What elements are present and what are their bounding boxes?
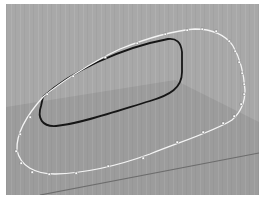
control-point[interactable] — [243, 93, 246, 96]
control-point[interactable] — [31, 171, 34, 174]
control-point[interactable] — [241, 72, 244, 75]
control-point[interactable] — [234, 50, 237, 53]
control-point[interactable] — [240, 103, 243, 106]
control-point[interactable] — [136, 42, 139, 45]
control-point[interactable] — [228, 40, 231, 43]
3d-viewport[interactable] — [6, 4, 259, 195]
control-point[interactable] — [142, 157, 145, 160]
control-point[interactable] — [20, 162, 23, 165]
control-point[interactable] — [176, 141, 179, 144]
control-point[interactable] — [75, 172, 78, 175]
control-point[interactable] — [238, 61, 241, 64]
control-point[interactable] — [222, 122, 225, 125]
control-point[interactable] — [15, 150, 18, 153]
control-point[interactable] — [46, 93, 49, 96]
control-point[interactable] — [48, 173, 51, 176]
control-point[interactable] — [243, 83, 246, 86]
control-point[interactable] — [19, 133, 22, 136]
viewport-canvas[interactable] — [6, 4, 259, 195]
control-point[interactable] — [215, 30, 218, 33]
control-point[interactable] — [186, 29, 189, 32]
control-point[interactable] — [201, 28, 204, 31]
control-point[interactable] — [233, 115, 236, 118]
control-point[interactable] — [107, 165, 110, 168]
control-point[interactable] — [164, 33, 167, 36]
control-point[interactable] — [202, 131, 205, 134]
control-point[interactable] — [104, 56, 107, 59]
control-point[interactable] — [72, 75, 75, 78]
control-point[interactable] — [29, 116, 32, 119]
